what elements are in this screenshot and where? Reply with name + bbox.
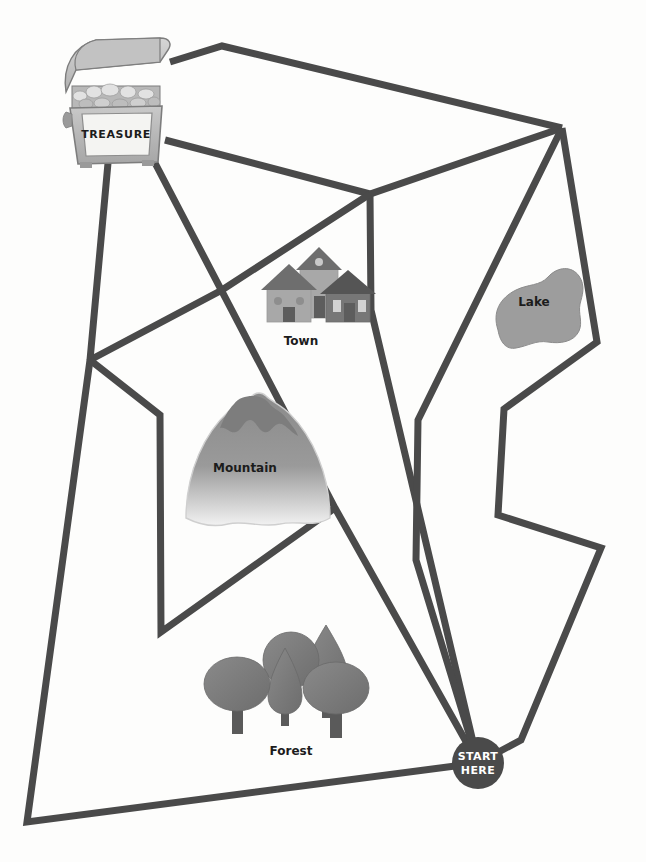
path-midjunction-down[interactable] (370, 194, 478, 763)
map-svg: Lake Mountain Town (0, 0, 646, 862)
start-label-line1: START (458, 750, 499, 763)
forest-label: Forest (270, 744, 313, 758)
path-right-edge-zig[interactable] (478, 128, 601, 763)
forest-trees-icon (204, 625, 369, 738)
mountain-label: Mountain (213, 461, 277, 475)
lake-label: Lake (518, 295, 550, 309)
treasure-label: TREASURE (81, 128, 151, 141)
treasure-chest-icon[interactable] (63, 38, 170, 168)
town-houses-icon (261, 247, 376, 322)
mountain-icon (186, 393, 330, 526)
start-label-line2: HERE (461, 764, 495, 777)
path-chest-top-to-topright[interactable] (170, 46, 562, 128)
start-here-marker[interactable]: START HERE (452, 737, 504, 789)
town-label: Town (284, 334, 318, 348)
path-topright-to-lake-left[interactable] (416, 128, 562, 763)
path-chest-right-to-mid[interactable] (165, 128, 562, 194)
treasure-map-canvas: Lake Mountain Town (0, 0, 646, 862)
